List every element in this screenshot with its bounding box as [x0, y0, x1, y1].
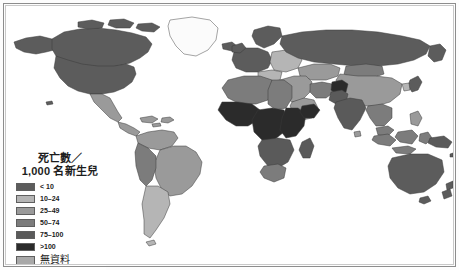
legend-swatch-no-data: [16, 256, 35, 265]
legend-label-25-49: 25–49: [40, 207, 59, 215]
legend-swatch-50-74: [16, 219, 35, 227]
legend-swatch-lt10: [16, 183, 35, 191]
region-island-cuba-arc: [152, 123, 161, 127]
region-island-fiji: [450, 153, 453, 157]
legend-title: 死亡數／ 1,000 名新生兒: [16, 152, 104, 178]
legend-row: >100: [16, 242, 104, 252]
legend-row: < 10: [16, 182, 104, 192]
infant-mortality-world-map-figure: 死亡數／ 1,000 名新生兒 < 10 10–24 25–49 50–74 7…: [0, 0, 459, 270]
legend-row: 75–100: [16, 230, 104, 240]
legend-swatch-10-24: [16, 195, 35, 203]
region-sri-lanka: [354, 131, 361, 137]
legend-label-gt100: >100: [40, 243, 56, 251]
legend-label-lt10: < 10: [40, 183, 54, 191]
map-legend: 死亡數／ 1,000 名新生兒 < 10 10–24 25–49 50–74 7…: [14, 150, 106, 270]
legend-label-no-data: 無資料: [40, 255, 70, 265]
legend-row: 50–74: [16, 218, 104, 228]
legend-label-50-74: 50–74: [40, 219, 59, 227]
legend-row: 25–49: [16, 206, 104, 216]
legend-label-75-100: 75–100: [40, 231, 63, 239]
legend-swatch-gt100: [16, 243, 35, 251]
legend-swatch-25-49: [16, 207, 35, 215]
legend-label-10-24: 10–24: [40, 195, 59, 203]
legend-swatch-75-100: [16, 231, 35, 239]
legend-row: 無資料: [16, 254, 104, 266]
region-island-hawaii: [46, 101, 53, 105]
legend-row: 10–24: [16, 194, 104, 204]
